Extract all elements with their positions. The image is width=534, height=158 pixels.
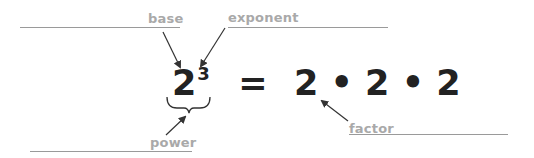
exponent-arrow-icon xyxy=(201,28,225,66)
annotation-arrows xyxy=(0,0,534,158)
power-brace-icon xyxy=(167,97,210,113)
power-arrow-icon xyxy=(166,117,185,135)
base-arrow-icon xyxy=(163,32,180,67)
factor-arrow-icon xyxy=(322,101,348,121)
